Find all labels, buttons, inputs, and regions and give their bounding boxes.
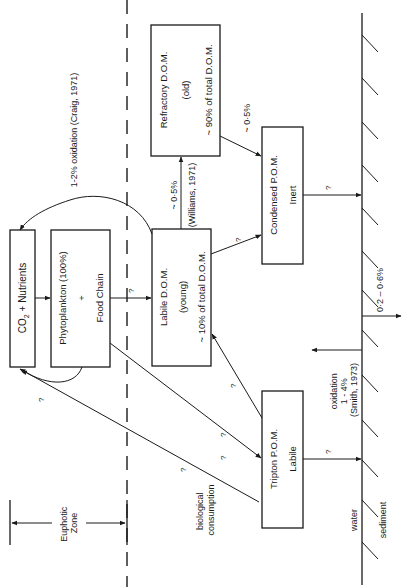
condensed-pom-box: Condensed P.O.M. Inert [262,127,303,264]
euphotic-zone-indicator: Euphotic Zone [10,500,127,545]
williams-percent-label: ~ 0·5% [169,181,179,210]
labile-dom-box: Labile D.O.M. (young) ~ 10% of total D.O… [152,229,211,366]
svg-text:Tripton P.O.M.: Tripton P.O.M. [268,429,279,489]
svg-text:?: ? [229,383,238,388]
svg-text:Refractory D.O.M.: Refractory D.O.M. [158,52,169,129]
phytoplankton-box: Phytoplankton (100%) + Food Chain [51,230,110,367]
svg-text:Condensed P.O.M.: Condensed P.O.M. [268,155,279,235]
svg-text:Phytoplankton (100%): Phytoplankton (100%) [57,251,68,344]
craig-oxidation-label: 1-2% oxidation (Craig, 1971) [69,73,79,188]
refractory-to-condensed-label: ~ 0·5% [242,104,252,133]
biological-consumption-label: biological consumption [195,484,216,535]
arrow-phyto-respiration-to-co2 [22,367,82,382]
svg-text:(young): (young) [177,281,188,313]
arrow-labile-dom-oxidation-to-co2 [20,196,152,234]
arrow-tripton-to-labile-dom [212,334,262,418]
svg-text:?: ? [324,185,333,190]
svg-text:?: ? [37,397,46,402]
svg-text:?: ? [234,237,243,242]
svg-text:?: ? [219,432,228,437]
sediment-label: sediment [378,501,388,538]
svg-text:Labile: Labile [287,446,298,471]
burial-percent-label: 0·2 – 0·6% [375,268,385,312]
arrow-refractory-to-condensed [220,136,261,156]
svg-text:Food Chain: Food Chain [94,273,105,322]
williams-ref-label: (Williams, 1971) [187,163,197,228]
svg-text:(old): (old) [180,80,191,99]
svg-text:Labile D.O.M.: Labile D.O.M. [158,268,169,326]
svg-text:?: ? [219,455,228,460]
co2-nutrients-box: CO2 + Nutrients [10,230,35,367]
tripton-pom-box: Tripton P.O.M. Labile [262,391,303,528]
svg-text:+: + [76,295,87,301]
svg-text:~ 10% of total D.O.M.: ~ 10% of total D.O.M. [196,251,207,342]
water-label: water [349,509,359,532]
svg-text:?: ? [324,449,333,454]
organic-matter-flow-diagram: Euphotic Zone water sediment CO2 + Nutr [0,0,411,587]
svg-text:Inert: Inert [287,185,298,204]
svg-text:~ 90% of total D.O.M.: ~ 90% of total D.O.M. [203,44,214,135]
euphotic-label: Euphotic Zone [59,504,79,542]
svg-text:?: ? [127,288,136,293]
refractory-dom-box: Refractory D.O.M. (old) ~ 90% of total D… [151,25,220,156]
svg-text:?: ? [179,467,188,472]
smith-oxidation-label: oxidation 1 - 4% (Smith, 1973) [329,363,359,417]
